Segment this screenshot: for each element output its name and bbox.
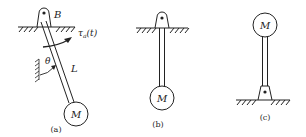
figure-b: M (b) [136, 12, 189, 129]
caption-c: (c) [260, 113, 271, 122]
caption-a: (a) [50, 125, 61, 134]
ground-support-c [236, 100, 290, 105]
ground-support-b [136, 28, 189, 33]
pivot-bracket-b [155, 12, 169, 28]
pivot-bracket-c [258, 86, 272, 100]
angle-label-theta: θ [45, 56, 51, 66]
pivot-pin-icon [160, 16, 163, 19]
mass-label-b: M [156, 93, 168, 104]
torque-arrow-a [43, 37, 72, 47]
caption-b: (b) [152, 120, 163, 129]
figure-a: B τa(t) θ L M (a) [18, 8, 98, 134]
mass-label-a: M [70, 109, 82, 120]
figure-c: M (c) [236, 13, 290, 122]
torque-label: τa(t) [78, 28, 98, 39]
pivot-pin-icon [42, 11, 45, 14]
ground-support-a [18, 27, 75, 32]
angle-arrow-a [40, 65, 56, 75]
mass-label-c: M [259, 20, 271, 31]
pivot-label-b: B [53, 9, 61, 20]
pivot-pin-icon [263, 90, 266, 93]
length-label-l: L [70, 63, 78, 74]
rod-c [263, 37, 268, 86]
pendulum-diagrams: B τa(t) θ L M (a) [0, 0, 306, 137]
rod-b [160, 28, 165, 86]
pivot-bracket-a [37, 8, 51, 27]
reference-wall-a [35, 59, 39, 82]
